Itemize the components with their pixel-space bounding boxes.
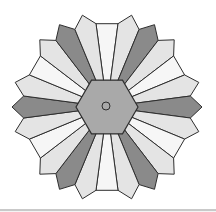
rosette-diagram bbox=[0, 0, 216, 212]
bottom-strip bbox=[0, 211, 216, 212]
